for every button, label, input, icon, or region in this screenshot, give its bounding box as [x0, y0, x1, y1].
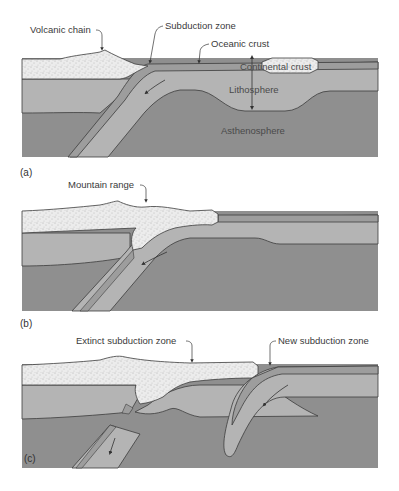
- panel-b-label: (b): [20, 318, 32, 329]
- label-subduction-zone: Subduction zone: [165, 20, 236, 31]
- panel-a-label: (a): [20, 167, 32, 178]
- label-continental-crust: Continental crust: [240, 61, 312, 72]
- subduction-diagram: Volcanic chain Subduction zone Oceanic c…: [0, 0, 399, 491]
- label-volcanic-chain: Volcanic chain: [30, 24, 91, 35]
- label-new-subduction-zone: New subduction zone: [278, 335, 369, 346]
- label-oceanic-crust: Oceanic crust: [211, 38, 269, 49]
- label-lithosphere: Lithosphere: [229, 84, 279, 95]
- panel-a: Volcanic chain Subduction zone Oceanic c…: [20, 20, 378, 178]
- panel-b: Mountain range (b): [20, 179, 378, 329]
- panel-c-label: (c): [24, 453, 36, 464]
- label-extinct-subduction-zone: Extinct subduction zone: [76, 335, 176, 346]
- label-asthenosphere: Asthenosphere: [221, 125, 285, 136]
- panel-c: Extinct subduction zone New subduction z…: [22, 335, 378, 468]
- label-mountain-range: Mountain range: [68, 179, 134, 190]
